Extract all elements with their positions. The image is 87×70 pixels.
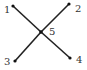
node-4 xyxy=(68,56,71,59)
edge-1-5 xyxy=(13,6,41,32)
node-label-2: 2 xyxy=(75,3,81,14)
edge-5-3 xyxy=(15,32,41,61)
node-label-5: 5 xyxy=(49,26,55,37)
node-2 xyxy=(67,2,70,5)
node-5 xyxy=(39,30,43,34)
graph-diagram: 12345 xyxy=(0,0,87,70)
node-1 xyxy=(11,4,14,7)
edge-5-4 xyxy=(41,32,70,58)
node-3 xyxy=(13,59,16,62)
node-label-1: 1 xyxy=(4,4,10,15)
node-label-3: 3 xyxy=(4,56,10,67)
node-label-4: 4 xyxy=(76,54,82,65)
